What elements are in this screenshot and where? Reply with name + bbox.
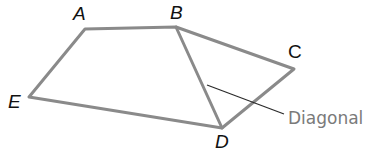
vertex-label-c: C <box>288 41 302 62</box>
vertex-label-a: A <box>72 3 86 24</box>
pentagon-diagram: A B C D E Diagonal <box>0 0 382 154</box>
pentagon-outline <box>29 27 294 128</box>
vertex-label-d: D <box>215 131 229 152</box>
diagonal-annotation: Diagonal <box>288 108 363 128</box>
vertex-label-e: E <box>8 91 21 112</box>
vertex-label-b: B <box>170 2 183 23</box>
